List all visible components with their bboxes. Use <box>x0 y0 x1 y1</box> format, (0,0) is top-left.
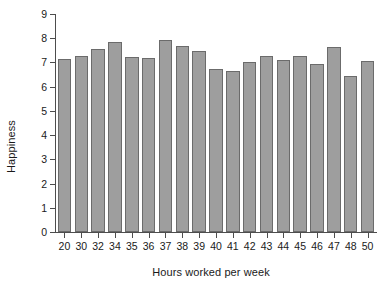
x-tick-label: 40 <box>210 241 222 252</box>
y-tick-label: 5 <box>41 106 47 117</box>
x-tick-mark <box>233 233 234 238</box>
y-tick-label: 1 <box>41 203 47 214</box>
x-tick-mark <box>199 233 200 238</box>
y-tick-label: 4 <box>41 130 47 141</box>
x-tick-label: 34 <box>109 241 121 252</box>
x-tick-label: 37 <box>160 241 172 252</box>
y-tick-label: 9 <box>41 9 47 20</box>
x-tick-label: 38 <box>176 241 188 252</box>
bar <box>91 49 104 232</box>
x-tick-label: 32 <box>92 241 104 252</box>
bar <box>176 46 189 233</box>
x-tick-mark <box>182 233 183 238</box>
x-tick-mark <box>317 233 318 238</box>
x-tick-mark <box>267 233 268 238</box>
x-tick-mark <box>115 233 116 238</box>
x-tick-label: 44 <box>278 241 290 252</box>
x-tick-mark <box>283 233 284 238</box>
bar <box>277 60 290 232</box>
bar <box>310 64 323 232</box>
bar <box>209 69 222 232</box>
x-axis-title: Hours worked per week <box>46 266 376 278</box>
bar <box>125 57 138 232</box>
x-tick-mark <box>216 233 217 238</box>
x-tick-mark <box>368 233 369 238</box>
bar <box>344 76 357 232</box>
y-tick-label: 3 <box>41 154 47 165</box>
x-tick-mark <box>334 233 335 238</box>
bar <box>192 51 205 232</box>
bar <box>226 71 239 232</box>
bar <box>142 58 155 232</box>
plot-area <box>56 14 376 232</box>
x-tick-label: 50 <box>362 241 374 252</box>
x-tick-label: 20 <box>59 241 71 252</box>
x-tick-label: 36 <box>143 241 155 252</box>
bar <box>243 62 256 232</box>
bar <box>58 59 71 232</box>
bar <box>75 56 88 232</box>
y-tick-label: 0 <box>41 227 47 238</box>
x-tick-mark <box>132 233 133 238</box>
y-axis-ticks: 0123456789 <box>0 0 55 293</box>
x-tick-label: 48 <box>345 241 357 252</box>
x-tick-mark <box>149 233 150 238</box>
x-tick-label: 46 <box>311 241 323 252</box>
x-tick-label: 30 <box>75 241 87 252</box>
x-tick-label: 35 <box>126 241 138 252</box>
x-tick-label: 43 <box>261 241 273 252</box>
x-tick-label: 42 <box>244 241 256 252</box>
x-tick-mark <box>64 233 65 238</box>
x-tick-label: 41 <box>227 241 239 252</box>
x-tick-mark <box>81 233 82 238</box>
bar <box>293 56 306 232</box>
y-tick-label: 6 <box>41 81 47 92</box>
y-tick-label: 2 <box>41 178 47 189</box>
x-tick-mark <box>250 233 251 238</box>
x-tick-label: 47 <box>328 241 340 252</box>
bar <box>260 56 273 232</box>
bar <box>108 42 121 232</box>
bar <box>361 61 374 232</box>
bar-chart-figure: Happiness 0123456789 2030323435363738394… <box>0 0 385 293</box>
y-tick-label: 7 <box>41 57 47 68</box>
x-tick-mark <box>300 233 301 238</box>
bar <box>327 47 340 232</box>
y-tick-label: 8 <box>41 33 47 44</box>
x-tick-mark <box>351 233 352 238</box>
x-tick-label: 45 <box>294 241 306 252</box>
x-tick-mark <box>98 233 99 238</box>
bar <box>159 40 172 232</box>
x-tick-label: 39 <box>193 241 205 252</box>
x-tick-mark <box>165 233 166 238</box>
